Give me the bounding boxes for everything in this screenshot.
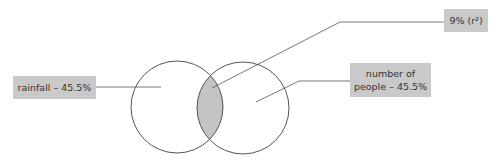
rainfall-label-text: rainfall – 45.5%	[18, 81, 92, 94]
people-label-line1: number of	[366, 67, 415, 80]
people-label: number of people – 45.5%	[350, 63, 431, 97]
people-label-line2: people – 45.5%	[354, 80, 427, 93]
people-leader-line	[256, 81, 350, 102]
overlap-label-text: 9% (r²)	[449, 14, 482, 27]
overlap-label: 9% (r²)	[444, 9, 488, 32]
rainfall-label: rainfall – 45.5%	[13, 76, 96, 99]
